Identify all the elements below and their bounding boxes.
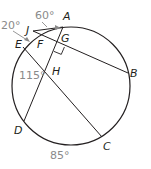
segment-JB (33, 31, 128, 73)
point-label-A: A (62, 10, 71, 23)
segment-EC (23, 47, 102, 137)
point-label-F: F (37, 38, 44, 51)
angle-label: 20° (1, 19, 21, 32)
point-label-E: E (15, 38, 22, 51)
point-label-D: D (14, 124, 22, 137)
right-angle-marker (54, 47, 65, 54)
angle-label: 115° (19, 69, 46, 82)
point-label-C: C (103, 140, 111, 153)
angle-label: 60° (35, 9, 55, 22)
circle (12, 27, 130, 145)
arrow-20-head-icon (24, 37, 30, 42)
point-label-J: J (24, 24, 29, 37)
angle-label: 85° (50, 149, 70, 162)
point-label-B: B (130, 67, 138, 80)
circle-diagram: ABCDEFGHJ 60°20°115°85° (0, 0, 151, 169)
arrow-60-line (42, 22, 47, 27)
point-label-H: H (52, 65, 60, 78)
point-label-G: G (61, 32, 70, 45)
